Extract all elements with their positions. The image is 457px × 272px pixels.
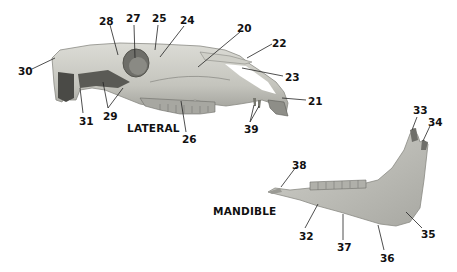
skull-illustration [0, 0, 457, 272]
label-38: 38 [292, 160, 307, 171]
label-29: 29 [103, 111, 118, 122]
label-22: 22 [272, 38, 287, 49]
label-30: 30 [18, 66, 33, 77]
label-31: 31 [79, 116, 94, 127]
label-26: 26 [182, 134, 197, 145]
label-33: 33 [413, 105, 428, 116]
label-20: 20 [237, 23, 252, 34]
lateral-skull [52, 43, 288, 116]
horse-skull-diagram: 20 21 22 23 24 25 26 27 28 29 30 31 32 3… [0, 0, 457, 272]
label-28: 28 [99, 16, 114, 27]
label-36: 36 [380, 253, 395, 264]
label-24: 24 [180, 15, 195, 26]
mandible-view-title: MANDIBLE [213, 205, 276, 217]
label-35: 35 [421, 229, 436, 240]
mandible [268, 128, 428, 226]
label-25: 25 [152, 13, 167, 24]
lateral-view-title: LATERAL [127, 122, 180, 134]
label-39: 39 [244, 124, 259, 135]
label-21: 21 [308, 96, 323, 107]
label-32: 32 [299, 231, 314, 242]
label-27: 27 [126, 13, 141, 24]
label-23: 23 [285, 72, 300, 83]
label-34: 34 [428, 117, 443, 128]
label-37: 37 [337, 242, 352, 253]
